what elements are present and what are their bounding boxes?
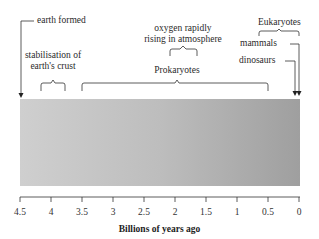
dinosaurs-label: dinosaurs [239,55,275,66]
tick-label: 0 [297,207,302,217]
tick-label: 3.5 [76,207,88,217]
tick-label: 1 [235,207,240,217]
eukaryotes-label: Eukaryotes [258,17,301,28]
tick-label: 1.5 [200,207,212,217]
oxygen-label-line1: oxygen rapidly [140,23,226,34]
earth-formed-label: earth formed [37,15,86,26]
oxygen-label-line2: rising in atmosphere [140,34,226,45]
tick-label: 3 [111,207,116,217]
stabilisation-label-line1: stabilisation of [22,50,84,61]
x-axis-label: Billions of years ago [0,224,319,234]
stabilisation-label-line2: earth's crust [22,61,84,72]
tick-label: 4.5 [14,207,26,217]
tick-label: 2.5 [138,207,150,217]
mammals-label: mammals [240,38,277,49]
tick-label: 4 [49,207,54,217]
prokaryotes-label: Prokaryotes [146,65,208,76]
tick-label: 2 [173,207,178,217]
tick-label: 0.5 [262,207,274,217]
